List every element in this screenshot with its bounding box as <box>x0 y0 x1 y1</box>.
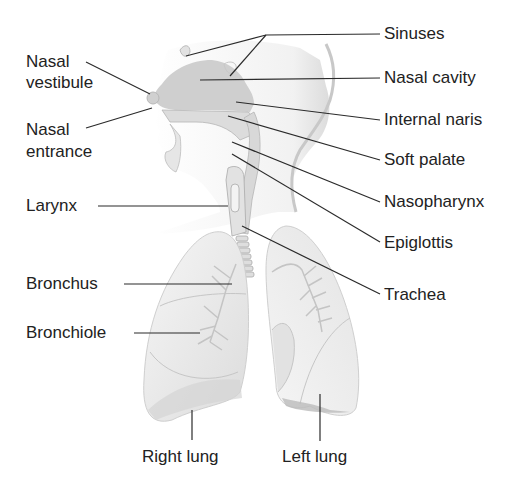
label-nasal-entrance-line1: Nasal <box>26 120 69 140</box>
right-lung-shape <box>144 232 249 422</box>
label-left-lung: Left lung <box>282 447 347 467</box>
label-nasal-vestibule-line1: Nasal <box>26 52 69 72</box>
label-nasal-entrance-line2: entrance <box>26 142 92 162</box>
label-nasal-vestibule-line2: vestibule <box>26 73 93 93</box>
label-bronchus: Bronchus <box>26 274 98 294</box>
respiratory-diagram: Sinuses Nasal cavity Internal naris Soft… <box>0 0 517 482</box>
label-bronchiole: Bronchiole <box>26 323 106 343</box>
label-trachea: Trachea <box>384 285 446 305</box>
label-epiglottis: Epiglottis <box>384 233 453 253</box>
label-sinuses: Sinuses <box>384 24 444 44</box>
label-right-lung: Right lung <box>142 447 219 467</box>
label-nasopharynx: Nasopharynx <box>384 192 484 212</box>
label-larynx: Larynx <box>26 196 77 216</box>
label-nasal-cavity: Nasal cavity <box>384 68 476 88</box>
label-soft-palate: Soft palate <box>384 150 465 170</box>
left-lung-shape <box>266 226 359 415</box>
label-internal-naris: Internal naris <box>384 110 482 130</box>
